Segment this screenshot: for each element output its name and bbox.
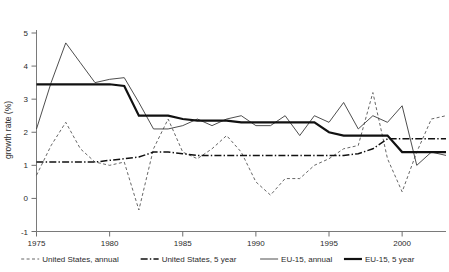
x-tick-label: 1975 <box>28 239 46 248</box>
y-axis-title: growth rate (%) <box>3 101 13 159</box>
y-tick-label: 4 <box>24 62 29 71</box>
x-tick-label: 1985 <box>174 239 192 248</box>
y-axis-group: -1012345 growth rate (%) <box>3 29 37 237</box>
y-tick-label: 3 <box>24 95 29 104</box>
x-tick-marks <box>37 232 403 237</box>
y-tick-label: 2 <box>24 128 29 137</box>
x-tick-label: 1990 <box>247 239 265 248</box>
series-line-3 <box>37 84 447 152</box>
y-tick-label: 1 <box>24 161 29 170</box>
growth-rate-chart: -1012345 growth rate (%) 197519801985199… <box>0 0 449 272</box>
legend-label-3: EU-15, 5 year <box>365 255 415 264</box>
y-tick-label: 5 <box>24 29 29 38</box>
x-axis-group: 197519801985199019952000 <box>28 232 446 249</box>
y-tick-labels: -1012345 <box>21 29 29 237</box>
chart-legend: United States, annualUnited States, 5 ye… <box>21 255 414 264</box>
x-tick-label: 1995 <box>320 239 338 248</box>
series-line-1 <box>37 139 447 162</box>
legend-label-0: United States, annual <box>42 255 119 264</box>
data-series-group <box>37 43 447 210</box>
x-tick-labels: 197519801985199019952000 <box>28 239 412 248</box>
legend-label-1: United States, 5 year <box>162 255 237 264</box>
legend-label-2: EU-15, annual <box>281 255 332 264</box>
y-tick-label: 0 <box>24 194 29 203</box>
x-tick-label: 2000 <box>393 239 411 248</box>
x-tick-label: 1980 <box>101 239 119 248</box>
series-line-0 <box>37 93 447 210</box>
y-tick-label: -1 <box>21 228 29 237</box>
y-tick-marks <box>32 33 37 232</box>
chart-canvas: -1012345 growth rate (%) 197519801985199… <box>0 0 449 272</box>
